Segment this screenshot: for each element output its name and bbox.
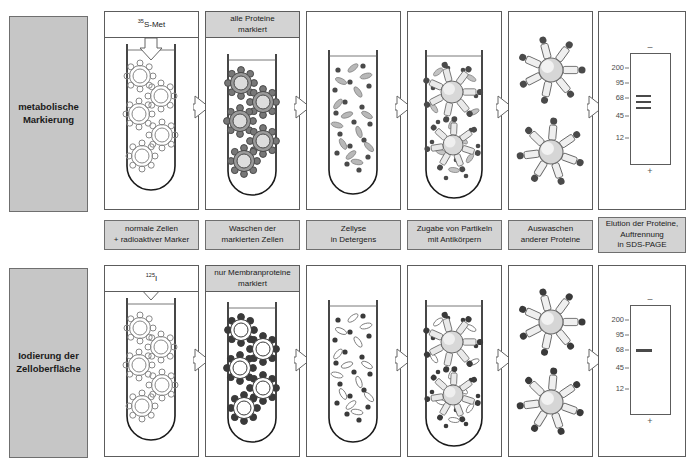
gel-metabolic-band-3 xyxy=(636,107,651,109)
tube-labeled-cells xyxy=(206,38,299,210)
gel-metabolic-mw-labels: 200 95 68 45 12 xyxy=(599,53,629,163)
panel-body-metabolic-step5 xyxy=(509,12,592,209)
panel-body-iodination-step5 xyxy=(509,266,592,456)
caption-step6-line3: in SDS-PAGE xyxy=(617,240,666,249)
caption-step6: Elution der Proteine, Auftrennung in SDS… xyxy=(598,217,686,253)
tube-beads-antibodies-labeled xyxy=(408,12,501,209)
panel-body-iodination-step6: – 200 95 68 45 12 + xyxy=(599,266,685,456)
marker-header-metabolic-line2: markiert xyxy=(238,25,267,34)
gel-iodination-mw-labels: 200 95 68 45 12 xyxy=(599,305,629,413)
gel-metabolic: – 200 95 68 45 12 + xyxy=(599,12,685,209)
panel-metabolic-step3 xyxy=(306,11,401,210)
gel-metabolic-mw-68: 68 xyxy=(616,93,629,102)
gel-metabolic-top-pole: – xyxy=(607,42,693,52)
marker-header-metabolic: alle Proteine markiert xyxy=(206,12,299,38)
panel-iodination-step1: 125I xyxy=(104,265,199,457)
caption-step6-line2: Auftrennung xyxy=(620,230,664,239)
panel-body-iodination-step3 xyxy=(307,266,400,456)
gel-metabolic-band-1 xyxy=(636,95,651,97)
caption-step3-line2: in Detergens xyxy=(331,235,376,244)
panel-body-metabolic-step6: – 200 95 68 45 12 + xyxy=(599,12,685,209)
caption-step3: Zellyse in Detergens xyxy=(306,220,401,250)
row-label-iodination-line1: Iodierung der xyxy=(18,350,79,361)
caption-step5: Auswaschen anderer Proteine xyxy=(508,220,593,250)
marker-header-iodination: nur Membranproteine markiert xyxy=(206,266,299,292)
tracer-header-iodination: 125I xyxy=(105,266,198,292)
caption-step3-line1: Zellyse xyxy=(341,224,366,233)
caption-step1-line2: + radioaktiver Marker xyxy=(114,235,189,244)
tube-membrane-labeled-cells xyxy=(206,292,299,457)
gel-iodination-top-pole: – xyxy=(607,294,693,304)
row-label-iodination: Iodierung der Zelloberfläche xyxy=(9,268,88,458)
gel-iodination-mw-68: 68 xyxy=(616,345,629,354)
gel-metabolic-bottom-pole: + xyxy=(607,166,693,176)
tube-beads-antibodies-membrane xyxy=(408,266,501,456)
row-label-metabolic-line2: Markierung xyxy=(23,114,74,125)
gel-metabolic-mw-200: 200 xyxy=(611,63,629,72)
immunoprecipitation-figure: metabolische Markierung 35S-Met xyxy=(0,0,696,468)
row-label-metabolic: metabolische Markierung xyxy=(9,16,88,212)
gel-metabolic-mw-45: 45 xyxy=(616,111,629,120)
beads-washed-membrane xyxy=(509,266,592,456)
gel-metabolic-mw-12: 12 xyxy=(616,133,629,142)
row-label-iodination-line2: Zelloberfläche xyxy=(16,363,80,374)
tracer-label-iodination: 125I xyxy=(146,272,157,284)
gel-iodination-mw-200: 200 xyxy=(611,315,629,324)
panel-metabolic-step2: alle Proteine markiert xyxy=(205,11,300,210)
caption-step5-line2: anderer Proteine xyxy=(521,235,581,244)
caption-step1: normale Zellen + radioaktiver Marker xyxy=(104,220,199,250)
gel-metabolic-band-2 xyxy=(636,101,651,103)
beads-washed-labeled xyxy=(509,12,592,209)
gel-iodination-mw-95: 95 xyxy=(616,330,629,339)
panel-iodination-step4 xyxy=(407,265,502,457)
gel-metabolic-mw-95: 95 xyxy=(616,78,629,87)
caption-step4-line2: mit Antikörpern xyxy=(428,235,481,244)
panel-iodination-step5 xyxy=(508,265,593,457)
row-label-metabolic-line1: metabolische xyxy=(18,101,79,112)
panel-metabolic-step6: – 200 95 68 45 12 + xyxy=(598,11,686,210)
panel-iodination-step2: nur Membranproteine markiert xyxy=(205,265,300,457)
tube-unlabeled-cells xyxy=(105,38,198,210)
caption-step4: Zugabe von Partikeln mit Antikörpern xyxy=(407,220,502,250)
panel-metabolic-step1: 35S-Met xyxy=(104,11,199,210)
caption-step4-line1: Zugabe von Partikeln xyxy=(417,224,493,233)
tube-unlabeled-cells-iodination xyxy=(105,292,198,457)
panel-body-metabolic-step3 xyxy=(307,12,400,209)
panel-body-iodination-step2 xyxy=(206,292,299,456)
panel-iodination-step6: – 200 95 68 45 12 + xyxy=(598,265,686,457)
caption-step2: Waschen der markierten Zellen xyxy=(205,220,300,250)
caption-step2-line1: Waschen der xyxy=(229,224,276,233)
tracer-header-metabolic: 35S-Met xyxy=(105,12,198,38)
marker-header-iodination-line1: nur Membranproteine xyxy=(214,268,290,277)
gel-iodination-bottom-pole: + xyxy=(607,416,693,426)
panel-body-metabolic-step2 xyxy=(206,38,299,209)
tracer-label-metabolic: 35S-Met xyxy=(138,18,165,30)
caption-step5-line1: Auswaschen xyxy=(528,224,573,233)
panel-body-metabolic-step4 xyxy=(408,12,501,209)
panel-body-metabolic-step1 xyxy=(105,38,198,209)
panel-body-iodination-step1 xyxy=(105,292,198,456)
caption-step2-line2: markierten Zellen xyxy=(222,235,284,244)
panel-body-iodination-step4 xyxy=(408,266,501,456)
caption-step6-line1: Elution der Proteine, xyxy=(606,219,679,228)
tube-lysate-membrane-labeled xyxy=(307,266,400,456)
panel-metabolic-step5 xyxy=(508,11,593,210)
gel-iodination-band-1 xyxy=(636,349,652,352)
marker-header-iodination-line2: markiert xyxy=(238,279,267,288)
panel-metabolic-step4 xyxy=(407,11,502,210)
gel-iodination-mw-45: 45 xyxy=(616,363,629,372)
gel-iodination-lane xyxy=(630,305,671,415)
gel-iodination: – 200 95 68 45 12 + xyxy=(599,266,685,456)
marker-header-metabolic-line1: alle Proteine xyxy=(230,14,274,23)
caption-step1-line1: normale Zellen xyxy=(125,224,178,233)
gel-metabolic-lane xyxy=(630,53,671,165)
tube-lysate-labeled xyxy=(307,12,400,209)
panel-iodination-step3 xyxy=(306,265,401,457)
gel-iodination-mw-12: 12 xyxy=(616,384,629,393)
